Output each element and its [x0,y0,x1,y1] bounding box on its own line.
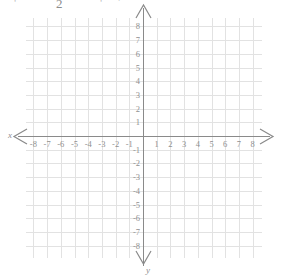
y-tick-label: 3 [127,91,140,100]
x-tick-label: -6 [54,140,68,149]
y-tick-label: 1 [127,118,140,127]
y-axis-line [143,8,144,266]
x-tick-label: 3 [177,140,191,149]
y-tick-label: 7 [127,36,140,45]
x-tick-label: -3 [95,140,109,149]
y-tick-label: -6 [127,214,140,223]
y-tick-label: -2 [127,159,140,168]
x-tick-label: 5 [205,140,219,149]
x-tick-label: 4 [191,140,205,149]
x-tick-label: -2 [109,140,123,149]
y-tick-label: 2 [127,105,140,114]
x-axis-label: x [8,131,12,140]
x-axis-right-arrowhead [257,128,275,145]
x-tick-label: -8 [26,140,40,149]
y-axis-top-arrowhead [135,3,152,21]
x-tick-label: 8 [246,140,260,149]
x-axis-line [18,136,270,137]
x-tick-label: -4 [81,140,95,149]
x-tick-label: 6 [218,140,232,149]
y-tick-label: 5 [127,64,140,73]
y-axis-label: y [146,266,150,275]
y-tick-label: -4 [127,187,140,196]
coordinate-plane-figure: 2''' x y -8-7-6-5-4-3-2-1123456788765432… [0,0,287,278]
y-tick-label: 8 [127,22,140,31]
y-tick-label: 4 [127,77,140,86]
y-tick-label: -7 [127,228,140,237]
y-tick-label: -3 [127,173,140,182]
y-tick-label: -8 [127,242,140,251]
x-tick-label: 7 [232,140,246,149]
y-tick-label: 6 [127,50,140,59]
y-tick-label: -1 [127,146,140,155]
x-tick-label: 1 [150,140,164,149]
x-tick-label: -5 [68,140,82,149]
y-axis-bottom-arrowhead [135,248,152,266]
x-tick-label: -7 [40,140,54,149]
x-tick-label: 2 [163,140,177,149]
y-tick-label: -5 [127,201,140,210]
